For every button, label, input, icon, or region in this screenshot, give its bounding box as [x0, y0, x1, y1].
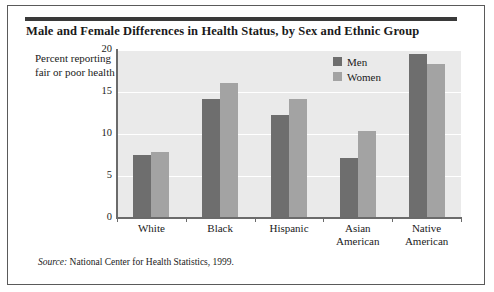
legend-swatch-women	[333, 72, 342, 81]
bar-men	[202, 99, 220, 218]
plot-area	[117, 50, 461, 218]
y-tick-label: 5	[90, 169, 112, 180]
y-axis-line	[116, 49, 118, 219]
bar-group	[117, 50, 186, 218]
source-label: Source:	[38, 257, 67, 267]
legend-item: Men	[333, 55, 381, 68]
bar-women	[289, 99, 307, 218]
chart-legend: MenWomen	[333, 55, 381, 85]
figure-panel: Male and Female Differences in Health St…	[7, 5, 485, 285]
bar-group	[392, 50, 461, 218]
source-note: Source: National Center for Health Stati…	[38, 257, 234, 267]
y-tick-label: 20	[90, 43, 112, 54]
x-tick-label: Native American	[381, 222, 473, 247]
y-tick-label: 0	[90, 211, 112, 222]
legend-item: Women	[333, 70, 381, 83]
legend-label: Women	[347, 71, 381, 83]
x-axis-line	[116, 217, 462, 219]
bar-women	[151, 152, 169, 218]
y-tick-label: 15	[90, 85, 112, 96]
bar-women	[427, 64, 445, 218]
bar-men	[409, 54, 427, 218]
bar-men	[271, 115, 289, 218]
bar-group	[186, 50, 255, 218]
legend-swatch-men	[333, 57, 342, 66]
bar-women	[220, 83, 238, 218]
bar-men	[340, 158, 358, 218]
y-axis-ticks: 05101520	[86, 6, 112, 292]
bar-women	[358, 131, 376, 218]
y-tick-label: 10	[90, 127, 112, 138]
source-text: National Center for Health Statistics, 1…	[70, 257, 234, 267]
legend-label: Men	[347, 56, 367, 68]
bar-group	[255, 50, 324, 218]
bar-men	[133, 155, 151, 218]
